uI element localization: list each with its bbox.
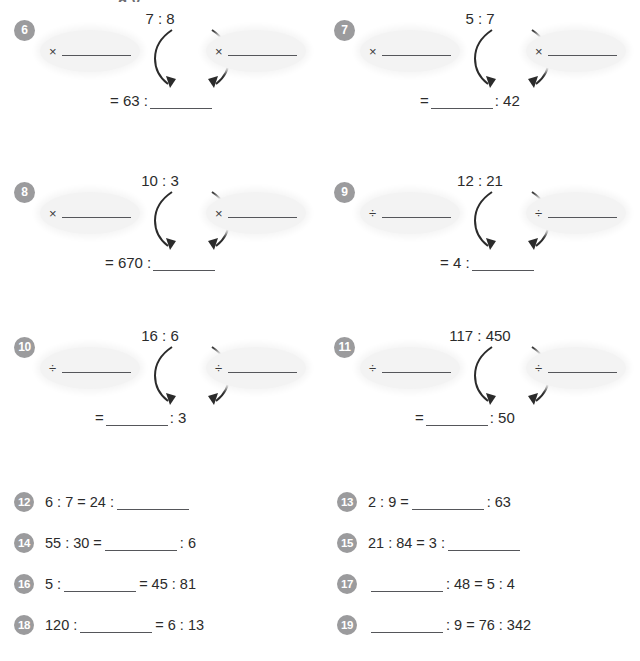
- result-equation: = 670 :: [105, 254, 305, 271]
- exercise-number-badge: 19: [337, 615, 357, 635]
- left-multiplier-oval[interactable]: ×: [40, 192, 140, 234]
- multiply-icon: ×: [369, 44, 377, 59]
- right-multiplier-oval[interactable]: ×: [526, 30, 626, 72]
- right-divisor-blank[interactable]: [548, 372, 617, 373]
- divide-icon: ÷: [49, 361, 56, 376]
- ratio-top-label: 5 : 7: [420, 10, 540, 27]
- exercise-number-badge: 9: [334, 182, 355, 203]
- result-blank[interactable]: [153, 270, 215, 271]
- equation-row: : 48 = 5 : 4: [368, 576, 515, 592]
- answer-blank[interactable]: [117, 509, 189, 510]
- cut-off-header-text: g y: [118, 0, 538, 2]
- answer-blank[interactable]: [371, 591, 443, 592]
- equation-suffix: : 63: [487, 494, 511, 510]
- result-prefix: = 4 :: [440, 254, 470, 271]
- result-suffix: : 3: [170, 409, 187, 426]
- equation-suffix: = 6 : 13: [155, 617, 204, 633]
- result-prefix: = 63 :: [110, 92, 148, 109]
- ratio-top-label: 10 : 3: [100, 172, 220, 189]
- exercise-number-badge: 18: [14, 615, 34, 635]
- ratio-top-label: 7 : 8: [100, 10, 220, 27]
- answer-blank[interactable]: [448, 550, 520, 551]
- divide-icon: ÷: [535, 361, 542, 376]
- left-divisor-blank[interactable]: [62, 372, 131, 373]
- equation-row: 2 : 9 =: 63: [368, 494, 511, 510]
- left-divisor-oval[interactable]: ÷: [360, 192, 460, 234]
- right-divisor-blank[interactable]: [548, 217, 617, 218]
- exercise-number-badge: 11: [334, 337, 355, 358]
- equation-row: 21 : 84 = 3 :: [368, 535, 523, 551]
- result-blank[interactable]: [150, 108, 212, 109]
- result-blank[interactable]: [426, 425, 488, 426]
- result-equation: =: 3: [95, 409, 295, 426]
- right-multiplier-oval[interactable]: ×: [206, 30, 306, 72]
- exercise-number-badge: 6: [14, 20, 35, 41]
- equation-prefix: 120 :: [45, 617, 77, 633]
- result-blank[interactable]: [431, 108, 493, 109]
- multiply-icon: ×: [535, 44, 543, 59]
- result-prefix: =: [95, 409, 104, 426]
- left-multiplier-blank[interactable]: [62, 217, 131, 218]
- left-multiplier-oval[interactable]: ×: [40, 30, 140, 72]
- right-divisor-oval[interactable]: ÷: [526, 347, 626, 389]
- right-multiplier-blank[interactable]: [548, 55, 617, 56]
- right-divisor-oval[interactable]: ÷: [206, 347, 306, 389]
- equation-row: : 9 = 76 : 342: [368, 617, 531, 633]
- divide-icon: ÷: [369, 361, 376, 376]
- equation-row: 6 : 7 = 24 :: [45, 494, 192, 510]
- exercise-number-badge: 8: [14, 182, 35, 203]
- exercise-number-badge: 13: [337, 492, 357, 512]
- right-divisor-blank[interactable]: [228, 372, 297, 373]
- right-divisor-oval[interactable]: ÷: [526, 192, 626, 234]
- result-blank[interactable]: [106, 425, 168, 426]
- right-multiplier-oval[interactable]: ×: [206, 192, 306, 234]
- exercise-number-badge: 12: [14, 492, 34, 512]
- equation-prefix: 2 : 9 =: [368, 494, 409, 510]
- result-equation: = 63 :: [110, 92, 310, 109]
- right-multiplier-blank[interactable]: [228, 217, 297, 218]
- result-prefix: =: [420, 92, 429, 109]
- answer-blank[interactable]: [105, 550, 177, 551]
- left-multiplier-blank[interactable]: [62, 55, 131, 56]
- result-equation: =: 42: [420, 92, 620, 109]
- equation-row: 5 := 45 : 81: [45, 576, 196, 592]
- left-multiplier-oval[interactable]: ×: [360, 30, 460, 72]
- result-equation: = 4 :: [440, 254, 640, 271]
- left-multiplier-blank[interactable]: [382, 55, 451, 56]
- equation-suffix: : 6: [180, 535, 196, 551]
- equation-prefix: 55 : 30 =: [45, 535, 102, 551]
- left-divisor-blank[interactable]: [382, 372, 451, 373]
- exercise-diagram-10: 10 ÷ 16 : 6 =: 3 ÷: [10, 325, 310, 455]
- result-prefix: =: [415, 409, 424, 426]
- result-blank[interactable]: [472, 270, 534, 271]
- answer-blank[interactable]: [80, 632, 152, 633]
- exercise-number-badge: 7: [334, 20, 355, 41]
- multiply-icon: ×: [49, 44, 57, 59]
- exercise-diagram-11: 11 ÷ 117 : 450 =: 50 ÷: [330, 325, 630, 455]
- ratio-top-label: 12 : 21: [420, 172, 540, 189]
- equation-row: 120 := 6 : 13: [45, 617, 204, 633]
- exercise-diagram-6: 6 × 7 : 8 = 63 : ×: [10, 8, 310, 138]
- right-multiplier-blank[interactable]: [228, 55, 297, 56]
- exercise-number-badge: 16: [14, 574, 34, 594]
- result-prefix: = 670 :: [105, 254, 151, 271]
- divide-icon: ÷: [215, 361, 222, 376]
- equation-suffix: : 48 = 5 : 4: [446, 576, 515, 592]
- left-divisor-blank[interactable]: [382, 217, 451, 218]
- equation-prefix: 6 : 7 = 24 :: [45, 494, 114, 510]
- exercise-diagram-7: 7 × 5 : 7 =: 42 ×: [330, 8, 630, 138]
- multiply-icon: ×: [49, 206, 57, 221]
- result-suffix: : 42: [495, 92, 520, 109]
- answer-blank[interactable]: [412, 509, 484, 510]
- exercise-number-badge: 15: [337, 533, 357, 553]
- exercise-diagram-8: 8 × 10 : 3 = 670 : ×: [10, 170, 310, 300]
- ratio-top-label: 117 : 450: [420, 327, 540, 344]
- divide-icon: ÷: [369, 206, 376, 221]
- left-divisor-oval[interactable]: ÷: [360, 347, 460, 389]
- left-divisor-oval[interactable]: ÷: [40, 347, 140, 389]
- answer-blank[interactable]: [371, 632, 443, 633]
- exercise-number-badge: 14: [14, 533, 34, 553]
- exercise-number-badge: 10: [14, 337, 35, 358]
- equation-row: 55 : 30 =: 6: [45, 535, 196, 551]
- answer-blank[interactable]: [64, 591, 136, 592]
